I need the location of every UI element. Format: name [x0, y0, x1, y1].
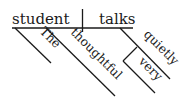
diagram-canvas: student talks The thoughtful quietly ver… [0, 0, 189, 101]
modifier-word-thoughtful: thoughtful [68, 25, 126, 83]
predicate-word: talks [99, 10, 136, 28]
sentence-diagram: student talks The thoughtful quietly ver… [0, 0, 189, 101]
connector-line-very [123, 47, 137, 61]
subject-word: student [12, 10, 70, 28]
